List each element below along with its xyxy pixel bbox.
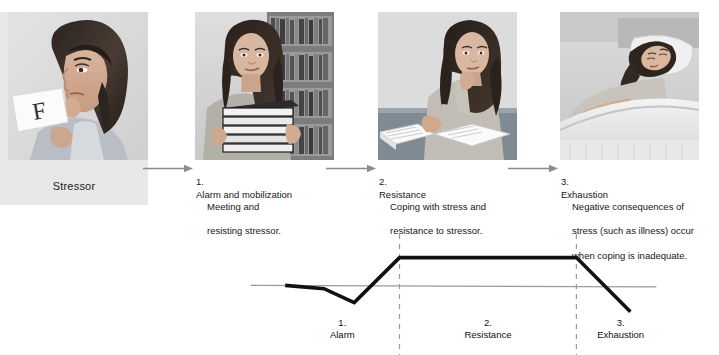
panel-exhaustion [560,12,699,160]
panel-resistance [378,12,517,160]
gas-phase-label-exhaustion: 3. Exhaustion [571,317,671,340]
arrow-stressor-to-alarm [143,159,193,168]
gas-phase-label-alarm: 1. Alarm [312,317,372,340]
general-adaptation-syndrome-chart: 1. Alarm 2. Resistance 3. Exhaustion [180,232,719,355]
panel-alarm [195,12,334,160]
gas-phase-1-name: Alarm [312,329,372,341]
step-2-heading: Resistance [379,189,426,200]
step-2-body-line-1: Coping with stress and [379,201,529,213]
gas-phase-2-number: 2. [438,317,538,329]
woman-lying-in-bed-photo [560,12,699,160]
woman-looking-at-failing-grade-photo: F [8,12,148,160]
step-3-heading: Exhaustion [561,189,608,200]
gas-phase-2-name: Resistance [438,329,538,341]
gas-phase-label-resistance: 2. Resistance [438,317,538,340]
woman-carrying-stack-of-books-photo [195,12,334,160]
gas-phase-1-number: 1. [312,317,372,329]
panel-stressor-caption: Stressor [0,180,148,192]
panel-stressor: F Stressor [0,12,148,205]
gas-phase-3-number: 3. [571,317,671,329]
step-1-body-line-1: Meeting and [196,201,346,213]
step-1-heading: Alarm and mobilization [196,189,292,200]
step-3-body-line-1: Negative consequences of [561,201,719,213]
step-3-number: 3. [561,176,569,187]
woman-studying-at-desk-photo [378,12,517,160]
gas-phase-3-name: Exhaustion [571,329,671,341]
step-1-number: 1. [196,176,204,187]
step-2-number: 2. [379,176,387,187]
gas-resistance-curve [285,258,630,312]
